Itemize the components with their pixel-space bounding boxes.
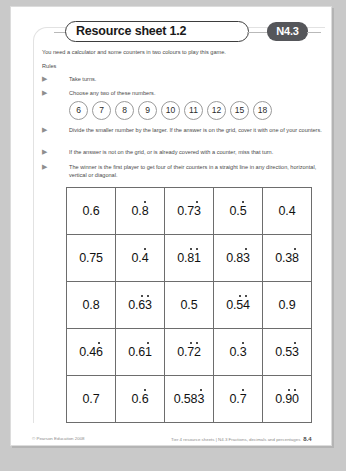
recurring-digit: 2: [194, 345, 201, 359]
grid-cell-value: 0.73: [177, 204, 201, 218]
rule-item: ▶ Divide the smaller number by the large…: [42, 126, 324, 134]
grid-cell[interactable]: 0.73: [165, 188, 214, 235]
recurring-digit: 5: [236, 298, 243, 312]
grid-cell-value: 0.46: [79, 345, 103, 359]
grid-cell-value: 0.8: [132, 204, 149, 218]
header-rule-right: [307, 32, 321, 33]
number-circle[interactable]: 11: [184, 101, 203, 120]
triangle-bullet-icon: ▶: [42, 163, 50, 170]
grid-cell[interactable]: 0.5: [165, 282, 214, 329]
grid-cell-value: 0.583: [174, 392, 204, 406]
grid-cell[interactable]: 0.46: [67, 329, 116, 376]
grid-cell[interactable]: 0.7: [214, 376, 263, 423]
footer-source-text: Tier 4 resource sheets | N4.3 Fractions,…: [171, 437, 300, 442]
rule-text: Take turns.: [69, 75, 324, 83]
grid-cell[interactable]: 0.54: [214, 282, 263, 329]
grid-cell[interactable]: 0.5: [214, 188, 263, 235]
rule-text: Choose any two of these numbers.: [69, 89, 324, 97]
recurring-digit: 5: [240, 204, 247, 218]
grid-cell[interactable]: 0.6: [67, 188, 116, 235]
grid-cell-value: 0.7: [83, 392, 100, 406]
grid-cell[interactable]: 0.90: [263, 376, 312, 423]
recurring-digit: 7: [187, 345, 194, 359]
recurring-digit: 8: [292, 251, 299, 265]
game-grid: 0.60.80.730.50.40.750.40.810.830.380.80.…: [66, 187, 312, 423]
rule-item: ▶ Choose any two of these numbers.: [42, 89, 324, 97]
grid-cell[interactable]: 0.583: [165, 376, 214, 423]
number-circle[interactable]: 18: [253, 101, 272, 120]
grid-cell-value: 0.53: [275, 345, 299, 359]
grid-cell[interactable]: 0.61: [116, 329, 165, 376]
grid-cell-value: 0.5: [230, 204, 247, 218]
page-footer: © Pearson Education 2008 Tier 4 resource…: [21, 436, 332, 446]
grid-cell-value: 0.54: [226, 298, 250, 312]
recurring-digit: 3: [145, 298, 152, 312]
intro-text: You need a calculator and some counters …: [42, 49, 320, 56]
grid-cell[interactable]: 0.53: [263, 329, 312, 376]
recurring-digit: 1: [145, 345, 152, 359]
header-rule-mid: [247, 32, 269, 33]
grid-row: 0.750.40.810.830.38: [67, 235, 312, 282]
triangle-bullet-icon: ▶: [42, 75, 50, 82]
unit-code-badge: N4.3: [267, 22, 308, 41]
recurring-digit: 0: [292, 392, 299, 406]
grid-cell[interactable]: 0.83: [214, 235, 263, 282]
number-circle[interactable]: 10: [161, 101, 180, 120]
recurring-digit: 8: [142, 204, 149, 218]
unit-code-label: N4.3: [267, 22, 308, 41]
recurring-digit: 6: [142, 392, 149, 406]
grid-cell-value: 0.6: [132, 392, 149, 406]
recurring-digit: 1: [194, 251, 201, 265]
grid-cell-value: 0.83: [226, 251, 250, 265]
triangle-bullet-icon: ▶: [42, 89, 50, 96]
grid-cell[interactable]: 0.3: [214, 329, 263, 376]
recurring-digit: 3: [197, 392, 204, 406]
grid-cell-value: 0.75: [79, 251, 103, 265]
grid-row: 0.80.630.50.540.9: [67, 282, 312, 329]
sheet-header: Resource sheet 1.2 N4.3: [11, 21, 332, 43]
resource-sheet-title-pill: Resource sheet 1.2: [65, 21, 249, 42]
recurring-digit: 7: [240, 392, 247, 406]
worksheet-page: Resource sheet 1.2 N4.3 You need a calcu…: [10, 6, 332, 446]
rule-item: ▶ If the answer is not on the grid, or i…: [42, 148, 324, 156]
grid-cell[interactable]: 0.7: [67, 376, 116, 423]
number-circle[interactable]: 8: [115, 101, 134, 120]
grid-cell[interactable]: 0.4: [263, 188, 312, 235]
grid-cell[interactable]: 0.9: [263, 282, 312, 329]
number-circle[interactable]: 12: [207, 101, 226, 120]
recurring-digit: 3: [243, 251, 250, 265]
recurring-digit: 4: [142, 251, 149, 265]
number-circle[interactable]: 9: [138, 101, 157, 120]
grid-cell-value: 0.38: [275, 251, 299, 265]
recurring-digit: 9: [285, 392, 292, 406]
grid-cell-value: 0.61: [128, 345, 152, 359]
page-number: 8.4: [303, 436, 311, 442]
rule-item: ▶ The winner is the first player to get …: [42, 163, 324, 179]
grid-cell-value: 0.4: [279, 204, 296, 218]
grid-cell-value: 0.81: [177, 251, 201, 265]
recurring-digit: 4: [243, 298, 250, 312]
grid-cell[interactable]: 0.38: [263, 235, 312, 282]
grid-cell-value: 0.63: [128, 298, 152, 312]
grid-cell[interactable]: 0.8: [67, 282, 116, 329]
grid-cell-value: 0.5: [181, 298, 198, 312]
number-choices: 6 7 8 9 10 11 12 15 18: [69, 101, 272, 120]
rule-text: The winner is the first player to get fo…: [69, 163, 324, 179]
grid-cell[interactable]: 0.63: [116, 282, 165, 329]
grid-cell[interactable]: 0.72: [165, 329, 214, 376]
grid-cell[interactable]: 0.4: [116, 235, 165, 282]
copyright-text: © Pearson Education 2008: [32, 436, 85, 441]
grid-cell[interactable]: 0.75: [67, 235, 116, 282]
grid-cell[interactable]: 0.8: [116, 188, 165, 235]
grid-cell[interactable]: 0.81: [165, 235, 214, 282]
grid-cell-value: 0.8: [83, 298, 100, 312]
recurring-digit: 3: [292, 345, 299, 359]
grid-cell[interactable]: 0.6: [116, 376, 165, 423]
footer-source: Tier 4 resource sheets | N4.3 Fractions,…: [171, 436, 312, 442]
grid-cell-value: 0.6: [83, 204, 100, 218]
number-circle[interactable]: 6: [69, 101, 88, 120]
page-title: Resource sheet 1.2: [76, 24, 186, 38]
number-circle[interactable]: 15: [230, 101, 249, 120]
grid-cell-value: 0.3: [230, 345, 247, 359]
number-circle[interactable]: 7: [92, 101, 111, 120]
